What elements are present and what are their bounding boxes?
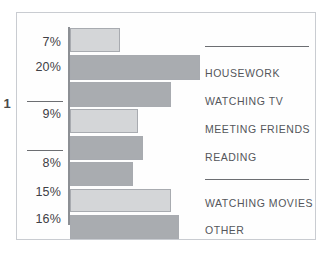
legend-item-meeting-friends: MEETING FRIENDS bbox=[205, 123, 310, 135]
bar-2[interactable] bbox=[70, 55, 200, 80]
bar-value-label-2: 20% bbox=[15, 60, 61, 74]
bar-3[interactable] bbox=[70, 82, 171, 107]
value-column-rule-2 bbox=[27, 150, 63, 151]
legend-rule-2 bbox=[205, 179, 309, 180]
legend-item-watching-movies: WATCHING MOVIES bbox=[205, 197, 313, 209]
legend-rule-1 bbox=[205, 46, 309, 47]
bar-value-label-8: 16% bbox=[15, 212, 61, 226]
chart-plot-area: 7% 20% 9% 8% 15% 16% HOUSEWORK WATCHING … bbox=[17, 13, 315, 239]
bar-1[interactable] bbox=[70, 28, 120, 52]
chart-figure-frame: 7% 20% 9% 8% 15% 16% HOUSEWORK WATCHING … bbox=[16, 12, 316, 240]
value-column-rule-1 bbox=[27, 101, 63, 102]
bar-value-label-6: 8% bbox=[15, 156, 61, 170]
bar-5[interactable] bbox=[70, 136, 143, 160]
legend-item-housework: HOUSEWORK bbox=[205, 67, 280, 79]
legend-item-watching-tv: WATCHING TV bbox=[205, 95, 283, 107]
bar-value-label-7: 15% bbox=[15, 185, 61, 199]
bar-8[interactable] bbox=[70, 215, 179, 239]
legend-item-reading: READING bbox=[205, 151, 257, 163]
legend-item-other: OTHER bbox=[205, 224, 245, 236]
bar-value-label-4: 9% bbox=[15, 107, 61, 121]
bar-7[interactable] bbox=[70, 189, 171, 212]
bar-value-label-1: 7% bbox=[15, 35, 61, 49]
bar-6[interactable] bbox=[70, 162, 133, 186]
page-number-marker: 1 bbox=[1, 97, 13, 111]
bar-4[interactable] bbox=[70, 109, 138, 133]
